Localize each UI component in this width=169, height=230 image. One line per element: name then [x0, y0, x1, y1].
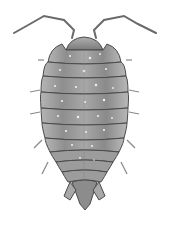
- pleon: [50, 150, 119, 182]
- isopod-illustration: [0, 0, 169, 230]
- pereon: [41, 44, 129, 152]
- antenna-right: [94, 16, 156, 38]
- antenna-left: [14, 16, 74, 38]
- telson: [72, 180, 97, 210]
- head: [66, 37, 103, 50]
